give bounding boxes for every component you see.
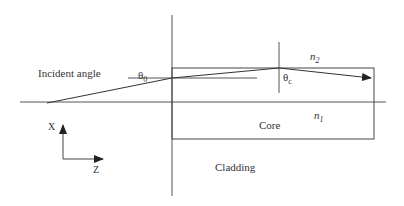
cladding-label: Cladding [215,162,255,173]
n1-label: n1 [314,110,324,124]
x-axis-label: X [48,122,55,132]
n1-subscript: 1 [320,115,324,124]
reflected-ray [279,68,371,78]
core-label: Core [259,120,280,131]
n2-label: n2 [310,51,320,65]
diagram-lines [0,0,404,206]
z-axis-label: Z [93,165,99,175]
thetac-subscript: c [288,77,292,86]
n2-subscript: 2 [316,56,320,65]
theta0-label: θ0 [138,70,147,84]
fiber-optic-diagram: Incident angle θ0 θc n2 n1 Core Cladding… [0,0,404,206]
incident-angle-label: Incident angle [38,68,101,79]
theta0-subscript: 0 [143,75,147,84]
thetac-label: θc [283,72,292,86]
